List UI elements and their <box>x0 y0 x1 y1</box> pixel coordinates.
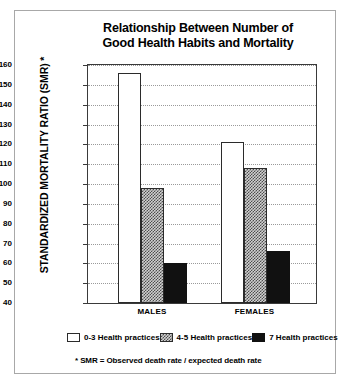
y-axis-tick-mark <box>83 204 88 205</box>
chart-title-line-1: Relationship Between Number of <box>67 21 329 36</box>
chart-legend: 0-3 Health practices 4-5 Health practice… <box>67 333 327 342</box>
bar-males-series-1 <box>141 188 164 303</box>
y-axis-tick-label: 70 <box>0 240 12 248</box>
y-axis-tick-mark <box>83 65 88 66</box>
y-axis-tick-mark <box>83 144 88 145</box>
legend-item-1: 4-5 Health practices <box>160 333 253 342</box>
y-axis-tick-mark <box>83 85 88 86</box>
gridline <box>88 65 316 66</box>
chart-figure: Relationship Between Number of Good Heal… <box>14 10 336 374</box>
legend-swatch-white-icon <box>67 333 80 342</box>
y-axis-tick-label: 160 <box>0 61 12 69</box>
y-axis-tick-label: 40 <box>0 299 12 307</box>
bar-females-series-0 <box>221 142 244 303</box>
bar-females-series-2 <box>267 251 290 303</box>
y-axis-tick-label: 50 <box>0 279 12 287</box>
bar-males-series-2 <box>164 263 187 303</box>
y-axis-tick-label: 110 <box>0 160 12 168</box>
chart-footnote: * SMR = Observed death rate / expected d… <box>75 356 262 365</box>
y-axis-tick-mark <box>83 224 88 225</box>
y-axis-tick-mark <box>83 303 88 304</box>
y-axis-tick-label: 100 <box>0 180 12 188</box>
x-axis-label-females: FEMALES <box>215 307 295 316</box>
legend-swatch-gray-icon <box>160 333 173 342</box>
chart-title: Relationship Between Number of Good Heal… <box>67 21 329 51</box>
y-axis-tick-mark <box>83 184 88 185</box>
bar-females-series-1 <box>244 168 267 303</box>
y-axis-tick-mark <box>83 164 88 165</box>
plot-area: 160150140130120110100908070605040 <box>87 64 317 304</box>
x-axis-label-males: MALES <box>112 307 192 316</box>
legend-item-2: 7 Health practices <box>252 333 337 342</box>
legend-item-0: 0-3 Health practices <box>67 333 160 342</box>
y-axis-tick-label: 80 <box>0 220 12 228</box>
legend-label-2: 7 Health practices <box>269 333 337 342</box>
legend-label-1: 4-5 Health practices <box>177 333 253 342</box>
y-axis-tick-label: 90 <box>0 200 12 208</box>
y-axis-tick-label: 150 <box>0 81 12 89</box>
y-axis-tick-label: 140 <box>0 101 12 109</box>
y-axis-tick-mark <box>83 244 88 245</box>
y-axis-tick-mark <box>83 283 88 284</box>
y-axis-tick-mark <box>83 125 88 126</box>
y-axis-tick-mark <box>83 263 88 264</box>
y-axis-tick-mark <box>83 105 88 106</box>
legend-swatch-black-icon <box>252 333 265 342</box>
legend-label-0: 0-3 Health practices <box>84 333 160 342</box>
chart-title-line-2: Good Health Habits and Mortality <box>67 36 329 51</box>
y-axis-tick-label: 60 <box>0 259 12 267</box>
y-axis-title: STANDARDIZED MORTALITY RATIO (SMR) * <box>38 40 50 290</box>
y-axis-tick-label: 130 <box>0 121 12 129</box>
bar-males-series-0 <box>118 73 141 303</box>
y-axis-tick-label: 120 <box>0 140 12 148</box>
